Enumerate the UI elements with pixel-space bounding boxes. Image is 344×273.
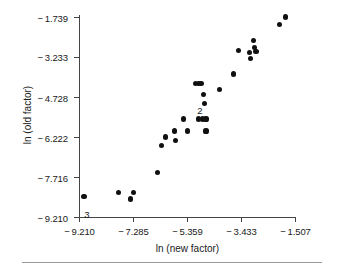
x-axis-tick-label: − 3.433 [226, 226, 257, 237]
data-point [277, 22, 282, 27]
data-point [198, 81, 203, 86]
overlap-count-label: 2 [197, 105, 202, 116]
x-axis-tick: − 9.210 [79, 217, 80, 222]
y-axis-tick-label: − 7.716 [37, 172, 68, 183]
data-point [159, 143, 164, 148]
x-axis-title: ln (new factor) [79, 243, 296, 254]
x-axis-tick: − 5.359 [187, 217, 188, 222]
data-point [155, 170, 160, 175]
x-axis-tick: − 1.507 [295, 217, 296, 222]
data-point [173, 138, 178, 143]
data-point [128, 196, 133, 201]
scatter-plot-figure: − 1.739− 3.233− 4.728− 6.222− 7.716− 9.2… [0, 0, 344, 273]
y-axis-title: ln (old factor) [22, 15, 36, 215]
data-point [247, 50, 252, 55]
data-point [231, 71, 236, 76]
data-point [181, 116, 186, 121]
x-axis-tick-label: − 5.359 [172, 226, 203, 237]
overlap-count-label: 3 [84, 209, 89, 220]
y-axis-tick: − 3.233 [74, 57, 79, 58]
y-axis-tick: − 6.222 [74, 137, 79, 138]
data-point [201, 92, 206, 97]
data-point [81, 194, 86, 199]
figure-bottom-rule [22, 262, 322, 263]
x-axis-tick: − 7.285 [133, 217, 134, 222]
data-point [163, 134, 168, 139]
data-point [251, 38, 256, 43]
x-axis-tick-label: − 9.210 [64, 226, 95, 237]
y-axis-tick: − 7.716 [74, 177, 79, 178]
data-point [172, 128, 177, 133]
x-axis-tick-label: − 1.507 [280, 226, 311, 237]
data-point [203, 128, 208, 133]
x-axis-tick: − 3.433 [241, 217, 242, 222]
y-axis-tick-label: − 4.728 [37, 92, 68, 103]
data-point [131, 190, 136, 195]
data-point [116, 190, 121, 195]
data-point [185, 128, 190, 133]
y-axis-tick: − 4.728 [74, 97, 79, 98]
y-axis-tick-label: − 1.739 [37, 12, 68, 23]
data-point [202, 101, 207, 106]
data-point [217, 87, 222, 92]
data-point [203, 116, 208, 121]
data-point [248, 56, 253, 61]
y-axis-tick-label: − 6.222 [37, 132, 68, 143]
plot-area: − 1.739− 3.233− 4.728− 6.222− 7.716− 9.2… [79, 17, 295, 217]
y-axis-tick-label: − 3.233 [37, 52, 68, 63]
data-point [253, 49, 258, 54]
data-point [236, 48, 241, 53]
data-point [283, 14, 288, 19]
x-axis-tick-label: − 7.285 [118, 226, 149, 237]
y-axis-tick-label: − 9.210 [37, 212, 68, 223]
y-axis-tick: − 1.739 [74, 17, 79, 18]
